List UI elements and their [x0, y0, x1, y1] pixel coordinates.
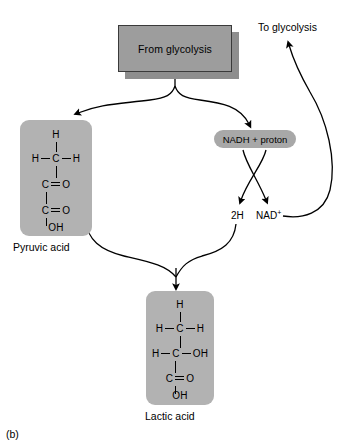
- bond-vertical: [180, 336, 181, 348]
- atom-label: O: [62, 179, 70, 190]
- atom-label: O: [186, 373, 194, 384]
- atom-label: OH: [172, 390, 187, 401]
- bond-horizontal: [165, 328, 174, 329]
- atom-label: C: [172, 348, 179, 359]
- bond-vertical: [56, 166, 57, 178]
- formula-row: HCH: [20, 154, 92, 164]
- bond-horizontal: [161, 353, 170, 354]
- bond-vertical: [56, 142, 57, 152]
- bond-vertical: [180, 312, 181, 322]
- pyruvic-acid-structure: H HCH CO CO OH: [20, 120, 92, 236]
- bond-horizontal: [41, 158, 50, 159]
- lactic-acid-fermentation-diagram: From glycolysis To glycolysis H HCH CO C…: [0, 0, 349, 447]
- atom-label: O: [62, 205, 70, 216]
- atom-label: H: [73, 153, 80, 164]
- formula-row: H: [146, 300, 214, 310]
- bond-double: [51, 208, 60, 212]
- formula-row: H: [20, 130, 92, 140]
- pyruvic-acid-caption: Pyruvic acid: [13, 241, 70, 253]
- lactic-acid-caption: Lactic acid: [145, 410, 195, 422]
- formula-row: CO: [20, 206, 110, 216]
- arrow-to-pyruvic: [78, 86, 175, 113]
- formula-row: CO: [20, 180, 110, 190]
- bond-horizontal: [186, 328, 195, 329]
- atom-label: C: [176, 323, 183, 334]
- bond-double: [51, 182, 60, 186]
- from-glycolysis-label: From glycolysis: [138, 43, 212, 55]
- bond-double: [175, 376, 184, 380]
- nadh-proton-node: NADH + proton: [214, 130, 296, 148]
- bond-horizontal: [182, 353, 191, 354]
- pyruvic-acid-formula: H HCH CO CO OH: [20, 120, 92, 236]
- arrow-2h-to-lactic: [176, 224, 236, 277]
- nad-plus-label: NAD+: [256, 210, 281, 221]
- nadh-proton-label: NADH + proton: [223, 134, 288, 145]
- atom-label: H: [32, 153, 39, 164]
- atom-label: H: [52, 129, 59, 140]
- formula-row: OH: [20, 223, 104, 233]
- atom-label: H: [176, 299, 183, 310]
- atom-label: C: [42, 205, 49, 216]
- figure-caption: (b): [6, 428, 19, 440]
- bond-vertical: [175, 361, 176, 373]
- nad-plus-superscript: +: [277, 209, 281, 216]
- atom-label: OH: [193, 348, 208, 359]
- arrow-to-nadh: [175, 86, 249, 124]
- atom-label: C: [42, 179, 49, 190]
- lactic-acid-structure: H HCH HCOH CO OH: [146, 291, 214, 405]
- from-glycolysis-box: From glycolysis: [118, 25, 232, 72]
- two-hydrogen-label: 2H: [231, 210, 244, 221]
- formula-row: OH: [146, 391, 216, 401]
- nad-plus-base: NAD: [256, 210, 277, 221]
- lactic-acid-formula: H HCH HCOH CO OH: [146, 291, 214, 405]
- bond-vertical: [46, 192, 47, 204]
- bond-horizontal: [62, 158, 71, 159]
- formula-row: CO: [146, 374, 220, 384]
- atom-label: H: [197, 323, 204, 334]
- atom-label: C: [52, 153, 59, 164]
- to-glycolysis-label: To glycolysis: [258, 21, 317, 33]
- atom-label: OH: [48, 222, 63, 233]
- atom-label: H: [156, 323, 163, 334]
- atom-label: H: [152, 348, 159, 359]
- arrow-cross-to-nad: [243, 150, 266, 200]
- formula-row: HCOH: [146, 349, 222, 359]
- formula-row: HCH: [146, 324, 214, 334]
- atom-label: C: [166, 373, 173, 384]
